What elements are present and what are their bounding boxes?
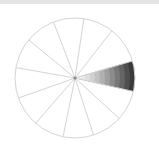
center-dot xyxy=(74,77,77,80)
spoke-line xyxy=(63,78,75,137)
segment-wheel xyxy=(0,0,159,149)
spoke-line xyxy=(16,68,75,78)
